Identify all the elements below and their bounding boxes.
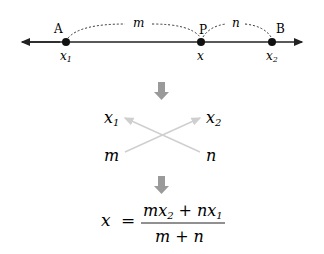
arc-n-label: n — [232, 16, 240, 30]
cross-x1: x1 — [104, 108, 119, 128]
coord-x2: x2 — [266, 49, 278, 64]
point-b-label: B — [276, 22, 285, 36]
formula-numerator: mx2+nx1 — [143, 201, 223, 221]
point-p — [197, 38, 205, 46]
down-arrow-icon — [154, 82, 169, 100]
down-arrow-icon — [154, 176, 169, 194]
point-a — [62, 38, 70, 46]
cross-n: n — [206, 146, 216, 165]
point-p-label: P — [199, 23, 207, 37]
formula-lhs: x — [101, 210, 111, 230]
coord-x1: x1 — [60, 49, 72, 64]
cross-m: m — [104, 146, 119, 165]
point-a-label: A — [53, 22, 63, 36]
formula-equals: = — [121, 210, 135, 230]
cross-x2: x2 — [206, 108, 221, 128]
formula-denominator: m+n — [155, 227, 204, 246]
point-b — [268, 38, 276, 46]
internal-division-diagram: m n A P B x1 x x2 x1 x2 m n x = mx2+nx1 … — [0, 0, 324, 254]
coord-x: x — [197, 49, 204, 63]
arc-m-label: m — [133, 16, 144, 30]
